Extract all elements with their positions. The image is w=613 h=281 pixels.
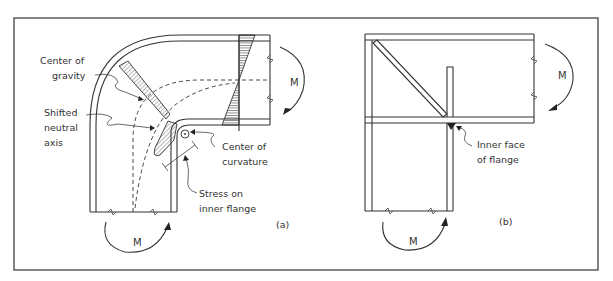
stiffener-upper [447,67,453,117]
dimension-tick [192,141,198,149]
label-shifted-neutral-axis: Shiftedneutralaxis [44,107,78,148]
moment-label-b-top: M [558,70,567,81]
leader-center-of-curvature [192,132,215,147]
panel-b-label: (b) [499,216,512,227]
panel-a-label: (a) [276,219,289,230]
dimension-tick [162,163,168,171]
leader-inner-face-of-flange [458,127,472,146]
moment-label-a-bottom: M [133,237,142,248]
label-stress-on-inner-flange: Stress oninner flange [199,188,256,214]
panel-b-square-knee [365,34,573,250]
label-center-of-curvature: Center ofcurvature [222,141,268,167]
stress-profile-bottom [222,80,239,125]
moment-label-b-bottom: M [409,236,418,247]
moment-arrowhead [548,104,557,111]
panel-a-curved-knee [86,35,304,252]
moment-arrowhead [283,108,292,115]
moment-arrowhead [441,217,448,226]
diagonal-stiffener [373,40,447,117]
arrowhead [138,96,144,101]
arrowhead [150,125,155,131]
stress-distribution-diagonal [119,61,170,119]
moment-label-a-top: M [290,77,299,88]
arrowhead [183,155,189,161]
arrowhead [190,129,195,135]
moment-arrowhead [164,222,171,230]
weld-marker [447,123,456,130]
knee-joint-diagram: Center ofgravity Shiftedneutralaxis Cent… [0,0,613,281]
leader-stress-inner-flange [186,158,197,193]
dimension-line [165,145,195,167]
label-center-of-gravity: Center ofgravity [40,55,86,81]
stress-profile-top [239,35,255,80]
label-inner-face-of-flange: Inner faceof flange [477,139,525,165]
center-dot [184,133,186,135]
